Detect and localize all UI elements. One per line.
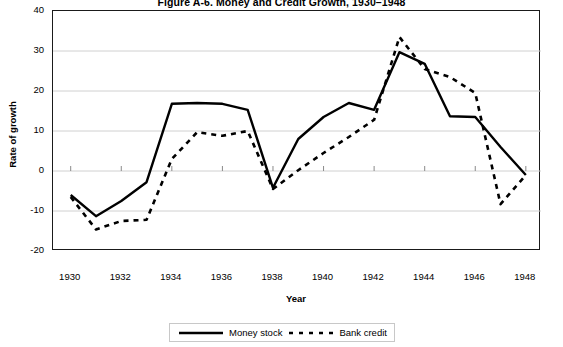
x-tick-label: 1934 <box>151 272 191 282</box>
series-2-line <box>71 37 526 229</box>
dashed-line-swatch-icon <box>287 328 335 338</box>
x-tick-label: 1946 <box>454 272 494 282</box>
legend-item-1[interactable]: Money stock <box>177 328 282 338</box>
y-tick-label: -20 <box>2 245 44 255</box>
x-tick-label: 1940 <box>303 272 343 282</box>
legend-label: Money stock <box>229 328 282 338</box>
y-tick-label: 0 <box>2 165 44 175</box>
y-tick-label: 40 <box>2 5 44 15</box>
chart-canvas <box>53 11 541 251</box>
x-axis-title: Year <box>52 293 540 304</box>
plot-area <box>52 10 540 250</box>
chart-figure: Figure A-6. Money and Credit Growth, 193… <box>0 0 563 347</box>
x-tick-label: 1938 <box>252 272 292 282</box>
gridlines <box>53 51 541 211</box>
chart-legend: Money stockBank credit <box>169 323 395 342</box>
legend-item-2[interactable]: Bank credit <box>287 328 387 338</box>
series-lines <box>71 37 526 229</box>
solid-line-swatch-icon <box>177 328 225 338</box>
x-tick-label: 1932 <box>100 272 140 282</box>
x-tick-label: 1944 <box>404 272 444 282</box>
x-tick-label: 1942 <box>353 272 393 282</box>
series-1-line <box>71 52 526 216</box>
y-tick-label: 30 <box>2 45 44 55</box>
y-tick-label: -10 <box>2 205 44 215</box>
y-tick-label: 10 <box>2 125 44 135</box>
x-tick-label: 1930 <box>50 272 90 282</box>
chart-title: Figure A-6. Money and Credit Growth, 193… <box>0 0 563 8</box>
x-tick-label: 1948 <box>505 272 545 282</box>
y-tick-label: 20 <box>2 85 44 95</box>
x-tick-label: 1936 <box>201 272 241 282</box>
legend-label: Bank credit <box>339 328 387 338</box>
